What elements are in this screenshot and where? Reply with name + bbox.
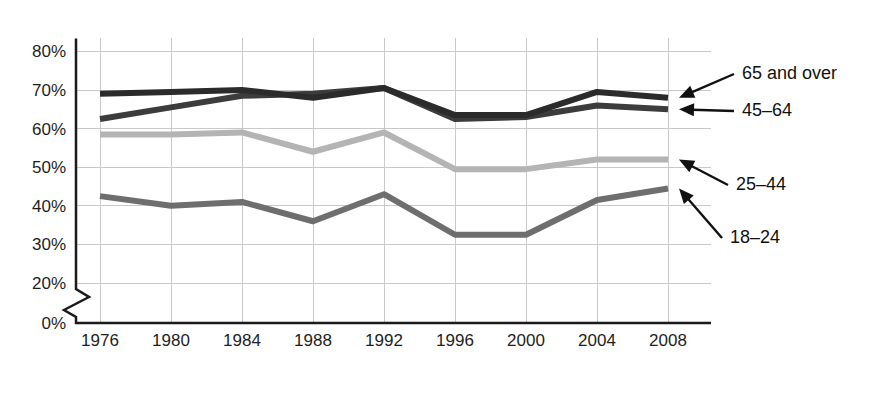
y-tick-label: 30%: [32, 235, 66, 254]
x-axis-tick-labels: 197619801984198819921996200020042008: [81, 331, 687, 350]
chart-container: 0%20%30%40%50%60%70%80% 1976198019841988…: [0, 0, 894, 393]
x-tick-label: 2004: [578, 331, 616, 350]
series-annotation-label: 25–44: [736, 174, 786, 194]
x-tick-label: 1984: [223, 331, 261, 350]
y-tick-label: 70%: [32, 81, 66, 100]
series-annotation-label: 65 and over: [742, 63, 837, 83]
x-tick-label: 2008: [649, 331, 687, 350]
annotation-leader-line: [692, 110, 734, 111]
x-tick-label: 2000: [507, 331, 545, 350]
y-tick-label: 20%: [32, 274, 66, 293]
y-tick-label: 40%: [32, 197, 66, 216]
x-tick-label: 1988: [294, 331, 332, 350]
y-tick-label: 60%: [32, 120, 66, 139]
x-tick-label: 1992: [365, 331, 403, 350]
x-tick-label: 1980: [152, 331, 190, 350]
y-tick-label: 80%: [32, 42, 66, 61]
y-tick-label: 50%: [32, 158, 66, 177]
x-tick-label: 1996: [436, 331, 474, 350]
line-chart: 0%20%30%40%50%60%70%80% 1976198019841988…: [0, 0, 894, 393]
y-tick-label: 0%: [41, 314, 66, 333]
x-tick-label: 1976: [81, 331, 119, 350]
series-annotation-label: 45–64: [742, 100, 792, 120]
series-annotation-label: 18–24: [730, 227, 780, 247]
